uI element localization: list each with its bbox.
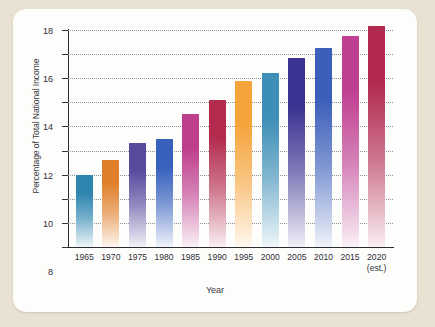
x-axis-tick-label: 2010 [310, 252, 337, 274]
x-axis-tick-label: 2020(est.) [363, 252, 390, 274]
bar-slot [230, 30, 257, 247]
bar-slot [363, 30, 390, 247]
bar-chart: Percentage of Total National Income 0246… [13, 9, 417, 312]
bar[interactable] [315, 48, 332, 247]
plot-area: 024681012141618 196519701975198019851990… [68, 30, 393, 247]
x-axis-tick-label: 1995 [230, 252, 257, 274]
bar-series [68, 30, 393, 247]
bar[interactable] [368, 26, 385, 247]
bar-slot [284, 30, 311, 247]
y-axis-tick-label: 8 [48, 267, 53, 277]
bar-slot [257, 30, 284, 247]
chart-panel: Percentage of Total National Income 0246… [13, 9, 417, 312]
bar-slot [124, 30, 151, 247]
bar[interactable] [288, 58, 305, 247]
bar-slot [337, 30, 364, 247]
bar[interactable] [342, 36, 359, 247]
x-axis-tick-label: 2000 [257, 252, 284, 274]
bar[interactable] [76, 175, 93, 247]
bar[interactable] [129, 143, 146, 247]
y-axis-tick: 0 [62, 247, 68, 248]
bar-slot [98, 30, 125, 247]
x-axis-line [67, 247, 394, 248]
x-axis-label: Year [13, 285, 417, 295]
x-axis-tick-label: 1965 [71, 252, 98, 274]
x-axis-tick-label: 1980 [151, 252, 178, 274]
y-axis-tick-label: 10 [43, 219, 53, 229]
bar-slot [71, 30, 98, 247]
x-axis-tick-label: 1985 [177, 252, 204, 274]
bar-slot [151, 30, 178, 247]
x-axis-tick-sublabel: (est.) [363, 263, 390, 274]
x-axis-tick-label: 1970 [98, 252, 125, 274]
y-axis-tick-label: 14 [43, 122, 53, 132]
bar[interactable] [235, 81, 252, 247]
bar-slot [177, 30, 204, 247]
bar[interactable] [102, 160, 119, 247]
y-axis-tick-label: 16 [43, 74, 53, 84]
x-axis-tick-label: 1975 [124, 252, 151, 274]
bar[interactable] [262, 73, 279, 247]
bar-slot [204, 30, 231, 247]
bar[interactable] [209, 100, 226, 247]
x-axis-tick-labels: 1965197019751980198519901995200020052010… [68, 252, 393, 274]
y-axis-tick-label: 18 [43, 26, 53, 36]
bar[interactable] [156, 139, 173, 248]
x-axis-tick-label: 1990 [204, 252, 231, 274]
x-axis-tick-label: 2005 [284, 252, 311, 274]
bar[interactable] [182, 114, 199, 247]
bar-slot [310, 30, 337, 247]
y-axis-label: Percentage of Total National Income [31, 26, 41, 226]
x-axis-tick-label: 2015 [337, 252, 364, 274]
y-axis-tick-label: 12 [43, 171, 53, 181]
